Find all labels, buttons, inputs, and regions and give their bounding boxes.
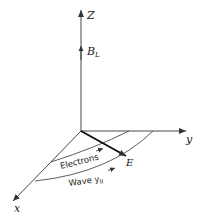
z-axis-label: Z — [86, 9, 95, 22]
x-axis-label: x — [14, 202, 21, 215]
e-vector — [81, 131, 126, 156]
wave-label: Wave yII — [68, 173, 104, 189]
b-field-subscript: L — [94, 51, 100, 59]
diagram-canvas: Z BL y x E Electrons Wave yII — [0, 0, 201, 216]
wave-label-subscript: II — [99, 177, 104, 184]
b-field-label: BL — [86, 45, 100, 59]
y-axis-label: y — [185, 133, 193, 146]
wave-label-text: Wave y — [68, 174, 100, 188]
coordinate-diagram: Z BL y x E Electrons Wave yII — [0, 0, 201, 216]
e-vector-label: E — [125, 157, 134, 168]
b-field-symbol: B — [86, 45, 95, 58]
wave-arc-arrow — [108, 168, 115, 171]
electrons-arc-arrow — [96, 149, 103, 152]
